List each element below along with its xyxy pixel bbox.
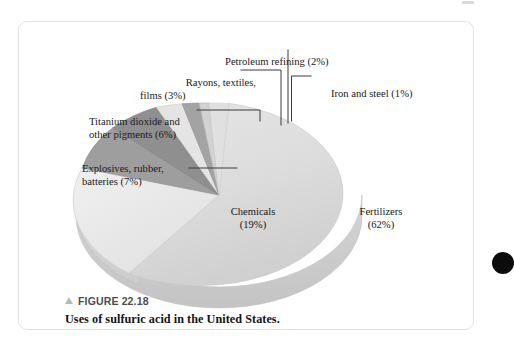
- label-iron-and-steel: Iron and steel (1%): [331, 88, 412, 101]
- label-titanium-line1: Titanium dioxide and: [89, 116, 180, 129]
- label-titanium-line2: other pigments (6%): [89, 129, 180, 142]
- label-explosives-rubber-batteries: Explosives, rubber, batteries (7%): [82, 163, 164, 188]
- label-petroleum-refining: Petroleum refining (2%): [225, 56, 329, 69]
- label-explosives-line1: Explosives, rubber,: [82, 163, 164, 176]
- triangle-up-icon: [65, 297, 73, 304]
- leader-line-iron: [292, 76, 312, 121]
- label-fertilizers-line2: (62%): [335, 219, 427, 232]
- label-fertilizers-line1: Fertilizers: [335, 206, 427, 219]
- label-fertilizers: Fertilizers (62%): [335, 206, 427, 231]
- label-chemicals-line1: Chemicals: [207, 206, 299, 219]
- label-chemicals-line2: (19%): [207, 219, 299, 232]
- label-explosives-line2: batteries (7%): [82, 176, 164, 189]
- label-rayons-line2: films (3%): [140, 90, 256, 103]
- label-petroleum-text: Petroleum refining (2%): [225, 56, 329, 69]
- figure-caption: FIGURE 22.18 Uses of sulfuric acid in th…: [65, 295, 465, 327]
- label-iron-text: Iron and steel (1%): [331, 88, 412, 101]
- label-rayons-textiles-films: Rayons, textiles, films (3%): [140, 77, 256, 102]
- figure-panel: Petroleum refining (2%) Rayons, textiles…: [18, 21, 474, 330]
- page-top-artifact: [462, 1, 474, 4]
- label-chemicals: Chemicals (19%): [207, 206, 299, 231]
- figure-caption-header: FIGURE 22.18: [65, 295, 465, 307]
- pie-chart: Petroleum refining (2%) Rayons, textiles…: [19, 22, 475, 331]
- figure-number: FIGURE 22.18: [78, 295, 149, 307]
- label-titanium-dioxide: Titanium dioxide and other pigments (6%): [89, 116, 180, 141]
- figure-caption-text: Uses of sulfuric acid in the United Stat…: [65, 312, 465, 327]
- label-rayons-line1: Rayons, textiles,: [140, 77, 256, 90]
- page-edge-dot: [492, 252, 514, 274]
